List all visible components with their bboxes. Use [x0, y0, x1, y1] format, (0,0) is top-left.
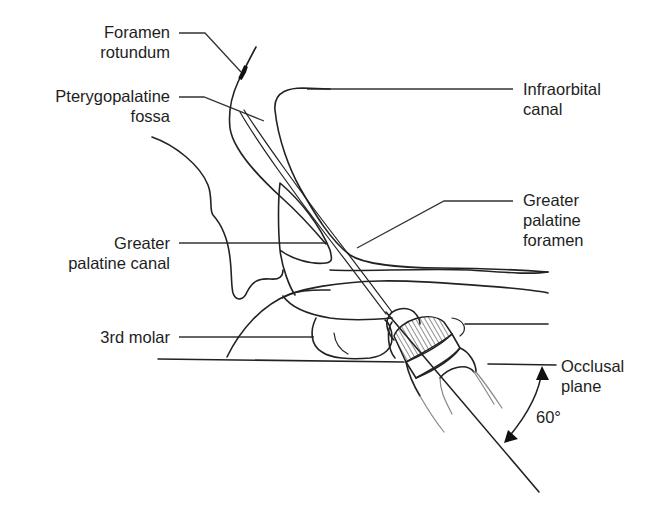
- arrowhead-bottom-icon: [504, 430, 518, 443]
- label-foramen-rotundum-line1: Foramen: [70, 22, 170, 42]
- barrel-left-fade: [420, 396, 444, 432]
- label-infraorbital-canal: Infraorbital canal: [523, 79, 653, 119]
- needle-line-a: [240, 112, 386, 314]
- label-angle-60: 60°: [536, 407, 586, 427]
- palatine-bone-triangle: [279, 183, 332, 295]
- pterygoid-plate: [152, 137, 283, 299]
- label-greater-palatine-canal-line1: Greater: [20, 233, 170, 253]
- leader-greater-palatine-foramen: [357, 201, 513, 248]
- leader-foramen-rotundum: [179, 33, 241, 72]
- label-greater-palatine-foramen-line2: palatine: [523, 210, 653, 230]
- label-infraorbital-canal-line2: canal: [523, 99, 653, 119]
- foramen-rotundum-mark: [240, 66, 246, 79]
- label-third-molar: 3rd molar: [40, 327, 170, 347]
- label-occlusal-plane-line2: plane: [561, 376, 661, 396]
- label-greater-palatine-canal: Greater palatine canal: [20, 233, 170, 273]
- syringe: [386, 309, 539, 492]
- label-pterygopalatine-fossa: Pterygopalatine fossa: [20, 86, 170, 126]
- label-pterygopalatine-fossa-line2: fossa: [20, 106, 170, 126]
- angle-value: 60°: [536, 407, 586, 427]
- barrel-inner-arc: [440, 367, 474, 378]
- maxilla-posterior-wall: [275, 88, 548, 272]
- label-occlusal-plane-line1: Occlusal: [561, 356, 661, 376]
- label-infraorbital-canal-line1: Infraorbital: [523, 79, 653, 99]
- leader-lines: [179, 33, 513, 337]
- occlusal-plane-line: [158, 359, 404, 362]
- angle-indicator: [504, 366, 549, 443]
- third-molar-crown: [312, 318, 392, 359]
- barrel-inner-right: [474, 372, 494, 404]
- arrowhead-top-icon: [536, 366, 549, 380]
- barrel-right-fade: [476, 372, 502, 408]
- label-third-molar-line1: 3rd molar: [40, 327, 170, 347]
- label-greater-palatine-foramen: Greater palatine foramen: [523, 190, 653, 250]
- label-pterygopalatine-fossa-line1: Pterygopalatine: [20, 86, 170, 106]
- skull-outline: [152, 47, 556, 365]
- occlusal-plane-line-right: [488, 364, 556, 365]
- adjacent-tooth: [452, 318, 464, 336]
- label-greater-palatine-canal-line2: palatine canal: [20, 253, 170, 273]
- label-greater-palatine-foramen-line3: foramen: [523, 230, 653, 250]
- barrel-left-edge: [406, 362, 420, 396]
- third-molar-groove: [334, 333, 348, 354]
- needle-axis-line: [386, 312, 539, 492]
- leader-pterygopalatine-fossa: [179, 97, 264, 121]
- label-foramen-rotundum: Foramen rotundum: [70, 22, 170, 62]
- label-occlusal-plane: Occlusal plane: [561, 356, 661, 396]
- label-greater-palatine-foramen-line1: Greater: [523, 190, 653, 210]
- label-foramen-rotundum-line2: rotundum: [70, 42, 170, 62]
